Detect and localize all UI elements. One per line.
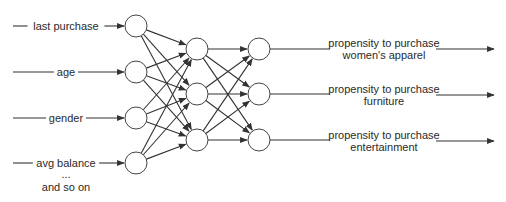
output-label-1-line1: propensity to purchase xyxy=(328,37,439,49)
hidden1-node xyxy=(186,38,208,60)
input-to-hidden1-edge xyxy=(143,58,189,110)
output-label-2-line1: propensity to purchase xyxy=(328,83,439,95)
input-label-gender: gender xyxy=(49,112,84,124)
input-to-hidden1-edge xyxy=(146,76,185,90)
output-label-1-line2: women's apparel xyxy=(342,49,426,61)
input-ellipsis: ... xyxy=(61,168,70,180)
output-label-2-line2: furniture xyxy=(364,95,404,107)
input-to-hidden1-edge xyxy=(146,30,185,45)
hidden2-node xyxy=(248,129,270,151)
input-node xyxy=(125,15,147,37)
hidden1-node xyxy=(186,83,208,105)
output-label-3-line1: propensity to purchase xyxy=(328,129,439,141)
input-labels: last purchase age gender avg balance ...… xyxy=(33,20,98,193)
input-label-and-so-on: and so on xyxy=(42,181,90,193)
input-node xyxy=(125,107,147,129)
output-labels: propensity to purchase women's apparel p… xyxy=(328,37,439,153)
input-to-hidden1-edge xyxy=(141,60,191,154)
hidden1-node xyxy=(186,129,208,151)
input-node xyxy=(125,61,147,83)
input-to-hidden1-edge xyxy=(143,103,189,155)
input-label-last-purchase: last purchase xyxy=(33,20,98,32)
input-node xyxy=(125,152,147,174)
neural-network-diagram: last purchase age gender avg balance ...… xyxy=(0,0,506,202)
hidden2-node xyxy=(248,83,270,105)
input-to-hidden1-edge xyxy=(146,144,185,159)
input-label-age: age xyxy=(57,66,75,78)
output-label-3-line2: entertainment xyxy=(350,141,417,153)
hidden2-node xyxy=(248,38,270,60)
